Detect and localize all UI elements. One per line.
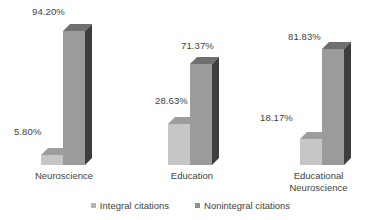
data-label-educational-neuroscience-nonintegral: 81.83% bbox=[288, 31, 321, 42]
bar-front-face bbox=[63, 31, 85, 165]
category-label-text-line2: Neuroscience bbox=[256, 182, 381, 194]
bar-front-face bbox=[322, 49, 344, 165]
bar-front-face bbox=[190, 64, 212, 165]
category-label-education: Education bbox=[128, 170, 256, 182]
bar-group-educational-neuroscience: 18.17% 81.83% Educational Neuroscience bbox=[256, 0, 381, 196]
bar-side-face bbox=[85, 24, 92, 165]
bar-educational-neuroscience-integral[interactable] bbox=[300, 139, 322, 165]
data-label-neuroscience-nonintegral: 94.20% bbox=[32, 6, 65, 17]
chart-legend: Integral citations Nonintegral citations bbox=[0, 200, 381, 211]
bar-chart: 5.80% 94.20% Neuroscience 28.63% bbox=[0, 0, 381, 220]
legend-item-label: Integral citations bbox=[100, 200, 169, 211]
bar-front-face bbox=[41, 155, 63, 165]
category-label-text-line1: Educational bbox=[256, 170, 381, 182]
legend-item-label: Nonintegral citations bbox=[204, 200, 290, 211]
bar-neuroscience-nonintegral[interactable] bbox=[63, 31, 85, 165]
bar-neuroscience-integral[interactable] bbox=[41, 155, 63, 165]
data-label-education-nonintegral: 71.37% bbox=[181, 40, 214, 51]
bar-education-integral[interactable] bbox=[168, 124, 190, 165]
legend-swatch-icon bbox=[91, 203, 96, 208]
bar-group-neuroscience: 5.80% 94.20% Neuroscience bbox=[0, 0, 128, 196]
bar-front-face bbox=[300, 139, 322, 165]
category-label-text: Neuroscience bbox=[35, 170, 93, 181]
bar-educational-neuroscience-nonintegral[interactable] bbox=[322, 49, 344, 165]
category-label-text: Education bbox=[171, 170, 213, 181]
bar-side-face bbox=[344, 42, 351, 165]
legend-swatch-icon bbox=[195, 203, 200, 208]
bar-front-face bbox=[168, 124, 190, 165]
legend-item-integral-citations[interactable]: Integral citations bbox=[91, 200, 169, 211]
legend-item-nonintegral-citations[interactable]: Nonintegral citations bbox=[195, 200, 290, 211]
data-label-neuroscience-integral: 5.80% bbox=[14, 126, 41, 137]
bar-side-face bbox=[212, 57, 219, 165]
category-label-educational-neuroscience: Educational Neuroscience bbox=[256, 170, 381, 193]
bar-group-education: 28.63% 71.37% Education bbox=[128, 0, 256, 196]
category-label-neuroscience: Neuroscience bbox=[0, 170, 128, 182]
data-label-education-integral: 28.63% bbox=[155, 95, 188, 106]
data-label-educational-neuroscience-integral: 18.17% bbox=[260, 112, 293, 123]
plot-area: 5.80% 94.20% Neuroscience 28.63% bbox=[0, 0, 381, 196]
bar-education-nonintegral[interactable] bbox=[190, 64, 212, 165]
